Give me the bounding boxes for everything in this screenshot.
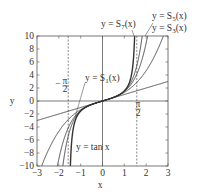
y-tick-label: 8 bbox=[29, 44, 34, 54]
svg-text:−: − bbox=[55, 79, 60, 89]
label-tan: y = tan x bbox=[76, 142, 110, 152]
label-pi-over-2: π 2 bbox=[135, 99, 141, 118]
x-tick-label: 1 bbox=[122, 168, 127, 178]
svg-text:2: 2 bbox=[63, 84, 68, 94]
x-axis-label: x bbox=[98, 180, 103, 190]
svg-text:y = S7(x): y = S7(x) bbox=[101, 19, 136, 31]
y-axis-label: y bbox=[10, 96, 15, 106]
y-tick-label: 2 bbox=[29, 83, 34, 93]
axis-ticks: −3−2−10123−10−8−6−4−20246810 bbox=[19, 31, 170, 178]
svg-text:y = S5(x): y = S5(x) bbox=[152, 11, 187, 23]
y-tick-label: −2 bbox=[24, 109, 34, 119]
taylor-series-chart: −3−2−10123−10−8−6−4−20246810 x y y = S7(… bbox=[0, 0, 197, 194]
y-tick-label: 4 bbox=[29, 70, 34, 80]
svg-text:2: 2 bbox=[136, 108, 141, 118]
y-tick-label: −8 bbox=[24, 148, 34, 158]
y-tick-label: 6 bbox=[29, 57, 34, 67]
label-s5: y = S5(x) bbox=[152, 11, 187, 23]
y-tick-label: 0 bbox=[29, 96, 34, 106]
label-s3: y = S3(x) bbox=[152, 23, 187, 35]
x-tick-label: −2 bbox=[54, 168, 64, 178]
y-tick-label: −10 bbox=[19, 161, 34, 171]
x-tick-label: 3 bbox=[166, 168, 171, 178]
y-tick-label: −4 bbox=[24, 122, 34, 132]
x-tick-label: 0 bbox=[100, 168, 105, 178]
label-s7: y = S7(x) bbox=[101, 19, 136, 31]
y-tick-label: 10 bbox=[25, 31, 35, 41]
x-tick-label: 2 bbox=[144, 168, 149, 178]
label-neg-pi-over-2: − π 2 bbox=[55, 76, 68, 94]
leader-s7 bbox=[132, 30, 134, 36]
svg-text:y = S3(x): y = S3(x) bbox=[152, 23, 187, 35]
y-tick-label: −6 bbox=[24, 135, 34, 145]
x-tick-label: −1 bbox=[76, 168, 86, 178]
